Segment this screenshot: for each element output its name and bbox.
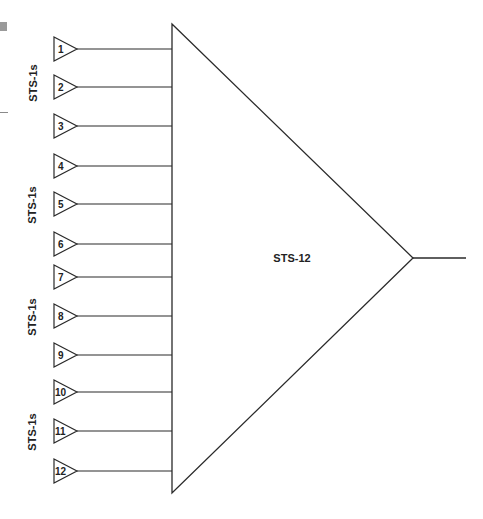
input-number-label: 2 (58, 82, 64, 93)
sts-12-label: STS-12 (273, 252, 310, 264)
input-number-label: 3 (58, 121, 64, 132)
input-4 (54, 154, 172, 178)
input-10 (54, 380, 172, 404)
input-12 (54, 459, 172, 483)
input-number-label: 9 (58, 350, 64, 361)
input-number-label: 4 (58, 161, 64, 172)
input-number-label: 1 (58, 44, 64, 55)
input-7 (54, 265, 172, 289)
input-1 (54, 37, 172, 61)
input-number-label: 6 (58, 239, 64, 250)
input-number-label: 8 (58, 311, 64, 322)
input-number-label: 5 (58, 199, 64, 210)
input-number-label: 11 (55, 426, 66, 437)
sts-1s-group-label: STS-1s (26, 186, 38, 223)
input-buffers (54, 37, 172, 483)
input-3 (54, 114, 172, 138)
input-8 (54, 304, 172, 328)
input-number-label: 7 (58, 272, 64, 283)
input-5 (54, 192, 172, 216)
sts-multiplexing-diagram: 123456789101112STS-1sSTS-1sSTS-1sSTS-1s … (0, 0, 483, 519)
sts-1s-group-label: STS-1s (27, 64, 39, 101)
input-number-label: 10 (55, 387, 66, 398)
input-6 (54, 232, 172, 256)
sts-1s-group-label: STS-1s (26, 298, 38, 335)
diagram-canvas (0, 0, 483, 519)
multiplexer-triangle (172, 24, 466, 493)
input-2 (54, 75, 172, 99)
input-number-label: 12 (55, 466, 66, 477)
input-9 (54, 343, 172, 367)
input-11 (54, 419, 172, 443)
sts-1s-group-label: STS-1s (26, 413, 38, 450)
